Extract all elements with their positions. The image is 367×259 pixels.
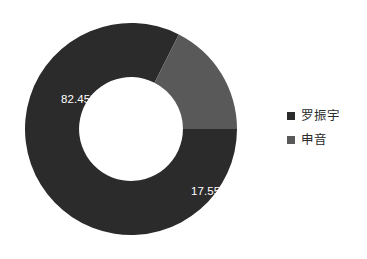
legend-item-label: 申音 xyxy=(301,134,327,147)
legend-item-1[interactable]: 申音 xyxy=(287,128,363,152)
donut-slices xyxy=(25,23,237,235)
slice-label-major: 82.45% xyxy=(61,94,101,106)
legend-item-0[interactable]: 罗振宇 xyxy=(287,104,363,128)
square-marker-icon xyxy=(287,136,295,144)
legend-item-label: 罗振宇 xyxy=(301,110,340,123)
donut-chart-figure: 82.45% 17.55% 罗振宇 申音 xyxy=(0,0,367,259)
chart-legend: 罗振宇 申音 xyxy=(287,104,363,152)
donut-svg xyxy=(25,18,237,240)
donut-plot-area: 82.45% 17.55% xyxy=(25,18,237,240)
slice-label-minor: 17.55% xyxy=(191,186,231,198)
square-marker-icon xyxy=(287,112,295,120)
